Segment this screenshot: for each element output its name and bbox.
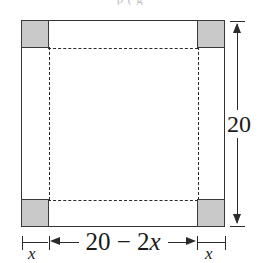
arrow-right-icon: [186, 237, 196, 245]
height-dimension-cap-top: [230, 21, 245, 22]
corner-square-top-right: [197, 20, 225, 48]
fold-line-left: [49, 47, 50, 200]
corner-square-bottom-left: [21, 199, 49, 227]
corner-square-bottom-right: [197, 199, 225, 227]
fold-line-right: [198, 47, 199, 200]
width-label-variable: x: [150, 228, 161, 255]
width-label: 20 − 2x: [76, 229, 170, 254]
corner-square-top-left: [21, 20, 49, 48]
fold-line-top: [48, 48, 198, 49]
clipped-caption-fragment: p ( g: [0, 0, 260, 5]
left-corner-tick-start: [22, 236, 23, 250]
right-corner-label: x: [205, 245, 213, 262]
width-dimension-line-right: [168, 242, 187, 243]
fold-line-bottom: [48, 200, 198, 201]
right-corner-tick-start: [197, 236, 198, 250]
open-box-diagram: p ( g 20 x 20 − 2x x: [0, 0, 260, 263]
height-label: 20: [226, 110, 252, 138]
right-corner-dimension-line: [197, 242, 225, 243]
outer-square: [21, 20, 225, 227]
width-label-number: 20 − 2: [85, 228, 149, 255]
right-corner-tick-end: [225, 236, 226, 250]
left-corner-dimension-line: [22, 242, 48, 243]
height-dimension-cap-bottom: [230, 226, 245, 227]
bottom-dimension-row: x 20 − 2x x: [0, 232, 260, 263]
arrow-down-icon: [233, 214, 241, 224]
left-corner-label: x: [28, 245, 36, 262]
arrow-up-icon: [233, 23, 241, 33]
